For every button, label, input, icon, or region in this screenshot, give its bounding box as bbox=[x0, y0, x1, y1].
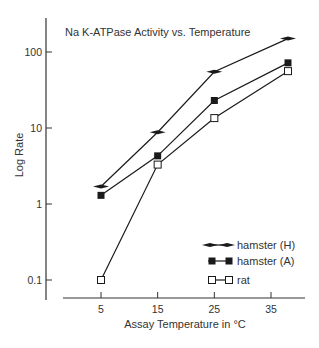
open-square-marker-icon bbox=[154, 161, 161, 168]
series-hamster-h bbox=[93, 37, 296, 189]
flat-diamond-marker-icon bbox=[150, 130, 166, 134]
flat-diamond-marker-icon bbox=[280, 37, 296, 41]
legend-label: rat bbox=[237, 274, 250, 286]
x-tick-label: 35 bbox=[265, 303, 277, 315]
y-tick-label: 0.1 bbox=[27, 274, 42, 286]
filled-square-marker-icon bbox=[209, 258, 216, 265]
line-chart: Na K-ATPase Activity vs. Temperature Log… bbox=[0, 0, 319, 348]
open-square-marker-icon bbox=[211, 115, 218, 122]
x-tick-label: 15 bbox=[152, 303, 164, 315]
legend-item: rat bbox=[208, 274, 250, 286]
filled-square-marker-icon bbox=[226, 258, 233, 265]
legend: hamster (H)hamster (A)rat bbox=[202, 239, 295, 286]
y-tick-label: 10 bbox=[30, 122, 42, 134]
series-rat bbox=[98, 68, 292, 284]
legend-label: hamster (A) bbox=[237, 255, 294, 267]
series-hamster-a bbox=[98, 59, 292, 198]
x-ticks: 5152535 bbox=[98, 292, 277, 315]
open-square-marker-icon bbox=[285, 68, 292, 75]
y-ticks: 0.1110100 bbox=[24, 46, 52, 286]
flat-diamond-marker-icon bbox=[219, 243, 235, 247]
filled-square-marker-icon bbox=[211, 97, 218, 104]
legend-item: hamster (A) bbox=[208, 255, 294, 267]
flat-diamond-marker-icon bbox=[206, 70, 222, 74]
x-tick-label: 25 bbox=[208, 303, 220, 315]
x-axis-label: Assay Temperature in °C bbox=[124, 318, 246, 330]
filled-square-marker-icon bbox=[98, 192, 105, 199]
legend-label: hamster (H) bbox=[237, 239, 295, 251]
y-axis-label: Log Rate bbox=[13, 133, 25, 178]
filled-square-marker-icon bbox=[285, 59, 292, 66]
y-tick-label: 100 bbox=[24, 46, 42, 58]
open-square-marker-icon bbox=[226, 277, 233, 284]
series-line bbox=[101, 63, 288, 195]
flat-diamond-marker-icon bbox=[202, 243, 218, 247]
chart-container: Na K-ATPase Activity vs. Temperature Log… bbox=[0, 0, 319, 348]
x-tick-label: 5 bbox=[98, 303, 104, 315]
open-square-marker-icon bbox=[98, 277, 105, 284]
open-square-marker-icon bbox=[209, 277, 216, 284]
y-tick-label: 1 bbox=[36, 198, 42, 210]
chart-title: Na K-ATPase Activity vs. Temperature bbox=[65, 26, 250, 38]
legend-item: hamster (H) bbox=[202, 239, 295, 251]
filled-square-marker-icon bbox=[154, 152, 161, 159]
series-line bbox=[101, 39, 288, 187]
flat-diamond-marker-icon bbox=[93, 184, 109, 188]
